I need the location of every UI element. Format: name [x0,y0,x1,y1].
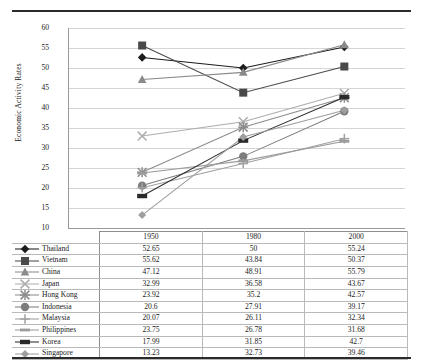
column-header: 2000 [305,232,408,244]
series-legend-cell: China [12,266,100,278]
top-divider-rule [12,10,411,12]
data-point-marker [339,140,349,143]
data-point-marker [239,89,247,97]
dash-bold-marker-icon [14,337,40,347]
data-point-marker [21,245,30,254]
series-name-label: Malaysia [42,313,70,324]
y-axis-tick-label: 30 [9,143,49,152]
table-cell-value: 20.6 [100,301,203,313]
y-axis-tick-label: 20 [9,183,49,192]
y-axis-tick-label: 25 [9,163,49,172]
y-axis-tick-label: 50 [9,63,49,72]
asterisk-marker-icon [14,290,40,300]
table-cell-value: 31.68 [305,325,408,337]
column-header: 1980 [202,232,305,244]
series-name-label: Indonesia [42,302,72,313]
data-point-marker [238,122,248,132]
series-legend-cell: Vietnam [12,255,100,267]
data-point-marker [20,290,30,300]
table-cell-value: 48.91 [202,266,305,278]
table-row: Thailand52.655055.24 [12,243,408,255]
y-axis-tick-label: 15 [9,203,49,212]
data-point-marker [20,329,30,332]
table-row: Japan32.9936.5843.67 [12,278,408,290]
table-cell-value: 32.34 [305,313,408,325]
square-marker-icon [14,256,40,266]
table-cell-value: 26.11 [202,313,305,325]
table-cell-value: 20.07 [100,313,203,325]
chart-area: Economic Activity Rates 6055504540353025… [0,16,421,232]
data-point-marker [138,42,146,50]
table-cell-value: 52.65 [100,243,203,255]
series-name-label: China [42,267,60,278]
data-point-marker [137,172,147,175]
data-point-marker [21,268,30,276]
table-row: Hong Kong23.9235.242.57 [12,290,408,302]
table-row: Malaysia20.0726.1132.34 [12,313,408,325]
y-axis-tick-label: 35 [9,123,49,132]
table-cell-value: 50.37 [305,255,408,267]
plus-marker-icon [14,314,40,324]
table-row: Philippines23.7526.7831.68 [12,325,408,337]
cross-x-marker-icon [14,279,40,289]
triangle-marker-icon [14,267,40,277]
table-cell-value: 43.84 [202,255,305,267]
table-cell-value: 55.79 [305,266,408,278]
data-point-marker [238,159,248,162]
table-cell-value: 36.58 [202,278,305,290]
table-row: China47.1248.9155.79 [12,266,408,278]
data-point-marker [21,303,29,311]
table-cell-value: 43.67 [305,278,408,290]
data-point-marker [137,194,147,198]
data-table-wrap: 1950 1980 2000 Thailand52.655055.24Vietn… [12,231,408,360]
bottom-divider-rule [12,357,411,359]
table-cell-value: 55.62 [100,255,203,267]
y-axis-tick-label: 45 [9,83,49,92]
table-cell-value: 42.57 [305,290,408,302]
table-cell-value: 17.99 [100,336,203,348]
table-cell-value: 50 [202,243,305,255]
data-point-marker [20,314,30,324]
series-name-label: Philippines [42,325,76,336]
table-row: Vietnam55.6243.8450.37 [12,255,408,267]
data-table: 1950 1980 2000 Thailand52.655055.24Vietn… [12,231,408,360]
series-legend-cell: Thailand [12,243,100,255]
y-axis-tick-label: 40 [9,103,49,112]
column-header: 1950 [100,232,203,244]
series-name-label: Vietnam [42,255,68,266]
data-point-marker [339,95,349,99]
table-body: Thailand52.655055.24Vietnam55.6243.8450.… [12,243,408,359]
table-cell-value: 47.12 [100,266,203,278]
table-cell-value: 35.2 [202,290,305,302]
table-cell-value: 23.75 [100,325,203,337]
y-axis-tick-label: 55 [9,43,49,52]
table-cell-value: 23.92 [100,290,203,302]
series-name-label: Korea [42,337,61,348]
series-lines-layer [68,28,405,228]
data-point-marker [138,53,147,62]
table-header-row: 1950 1980 2000 [12,232,408,244]
series-legend-cell: Korea [12,336,100,348]
table-cell-value: 27.91 [202,301,305,313]
table-cell-value: 26.78 [202,325,305,337]
table-row: Korea17.9931.8542.7 [12,336,408,348]
table-cell-value: 39.17 [305,301,408,313]
series-legend-cell: Philippines [12,325,100,337]
series-name-label: Japan [42,279,59,290]
y-axis-tick-label: 60 [9,23,49,32]
table-cell-value: 31.85 [202,336,305,348]
circle-marker-icon [14,302,40,312]
dash-marker-icon [14,325,40,335]
series-name-label: Thailand [42,244,69,255]
data-point-marker [20,340,30,344]
series-legend-cell: Indonesia [12,301,100,313]
diamond-marker-icon [14,244,40,254]
table-row: Indonesia20.627.9139.17 [12,301,408,313]
series-name-label: Hong Kong [42,290,78,301]
series-legend-cell: Malaysia [12,313,100,325]
data-point-marker [340,40,349,48]
x-axis-line [68,228,405,229]
data-point-marker [21,257,29,265]
series-legend-cell: Japan [12,278,100,290]
table-cell-value: 32.99 [100,278,203,290]
